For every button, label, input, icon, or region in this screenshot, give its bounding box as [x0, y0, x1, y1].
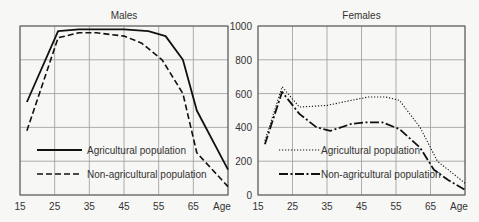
x-tick-label: 15: [14, 201, 26, 212]
x-tick-label: 35: [84, 201, 96, 212]
y-tick-label: 400: [235, 122, 252, 133]
x-tick-label: Age: [450, 201, 468, 212]
x-tick-label: 65: [425, 201, 437, 212]
y-tick-label: 1000: [230, 21, 253, 32]
x-tick-label: 45: [356, 201, 368, 212]
legend-label: Agricultural population: [87, 145, 186, 156]
x-tick-label: 35: [321, 201, 333, 212]
y-tick-label: 600: [235, 89, 252, 100]
males-panel: Males152535455565AgeAgricultural populat…: [14, 10, 231, 212]
panel-title: Females: [342, 10, 380, 21]
legend-label: Non-agricultural population: [321, 169, 441, 180]
x-tick-label: 25: [49, 201, 61, 212]
x-tick-label: 65: [188, 201, 200, 212]
panel-title: Males: [111, 10, 138, 21]
x-tick-label: 15: [252, 201, 264, 212]
chart-figure: Males152535455565AgeAgricultural populat…: [0, 0, 479, 222]
x-tick-label: 55: [153, 201, 165, 212]
legend-label: Non-agricultural population: [87, 169, 207, 180]
y-tick-label: 800: [235, 55, 252, 66]
y-tick-label: 200: [235, 156, 252, 167]
x-tick-label: Age: [213, 201, 231, 212]
x-tick-label: 25: [287, 201, 299, 212]
series-line: [27, 33, 228, 187]
y-tick-label: 0: [246, 190, 252, 201]
legend-label: Agricultural population: [321, 145, 420, 156]
x-tick-label: 55: [390, 201, 402, 212]
shared-y-axis: 02004006008001000: [230, 21, 253, 201]
females-panel: Females152535455565AgeAgricultural popul…: [252, 10, 468, 212]
x-tick-label: 45: [118, 201, 130, 212]
